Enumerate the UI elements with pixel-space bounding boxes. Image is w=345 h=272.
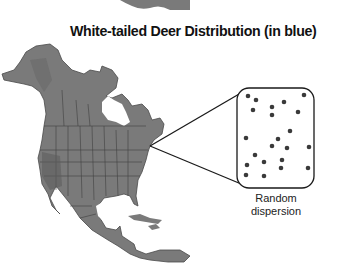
- dispersion-dot: [253, 153, 258, 158]
- random-dispersion-inset: [237, 88, 314, 188]
- partial-map-fragment: [120, 0, 190, 10]
- dispersion-dot: [296, 110, 301, 115]
- connector-line-top: [150, 90, 246, 146]
- diagram-canvas: [0, 0, 345, 272]
- dispersion-dot: [270, 113, 275, 118]
- dispersion-dot: [279, 166, 284, 171]
- dispersion-dot: [285, 146, 290, 151]
- dispersion-dot: [262, 174, 267, 179]
- north-america-map: [2, 44, 190, 262]
- dispersion-dot: [302, 93, 307, 98]
- caption-line-2: dispersion: [236, 205, 316, 218]
- dispersion-dot: [280, 158, 285, 163]
- caption-line-1: Random: [236, 192, 316, 205]
- dispersion-dot: [262, 160, 267, 165]
- inset-caption: Random dispersion: [236, 192, 316, 218]
- dispersion-dot: [254, 98, 259, 103]
- dispersion-dot: [244, 173, 249, 178]
- dispersion-dot: [282, 100, 287, 105]
- dispersion-dot: [270, 105, 275, 110]
- connector-line-bottom: [150, 146, 246, 186]
- dispersion-dot: [307, 145, 312, 150]
- dispersion-dot: [251, 108, 256, 113]
- dispersion-dot: [244, 136, 249, 141]
- figure-title: White-tailed Deer Distribution (in blue): [70, 23, 345, 39]
- dispersion-dot: [276, 137, 281, 142]
- dispersion-dot: [245, 163, 250, 168]
- dispersion-dot: [246, 94, 251, 99]
- dispersion-dot: [270, 144, 275, 149]
- dispersion-dot: [306, 166, 311, 171]
- dispersion-dot: [288, 129, 293, 134]
